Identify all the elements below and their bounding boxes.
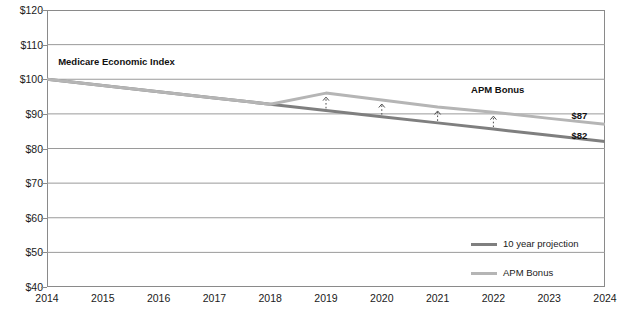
x-axis-tick-label: 2020 — [370, 292, 393, 304]
y-axis-tick-label: $100 — [20, 73, 43, 85]
legend-label: APM Bonus — [503, 267, 553, 278]
legend-swatch — [471, 243, 497, 246]
x-axis-tick-label: 2018 — [259, 292, 282, 304]
x-axis-tick-label: 2019 — [314, 292, 337, 304]
apm-bonus-callout: APM Bonus — [471, 84, 524, 95]
y-axis-tick-mark — [41, 149, 47, 150]
x-axis-tick-label: 2024 — [593, 292, 616, 304]
y-axis-tick-mark — [41, 10, 47, 11]
medicare-economic-index-label: Medicare Economic Index — [58, 56, 175, 67]
legend-swatch — [471, 272, 497, 275]
y-axis-tick-mark — [41, 45, 47, 46]
y-axis-tick-mark — [41, 218, 47, 219]
x-axis-tick-label: 2014 — [35, 292, 58, 304]
y-axis-tick-mark — [41, 79, 47, 80]
y-axis-tick-label: $110 — [20, 39, 43, 51]
x-axis-tick-label: 2022 — [482, 292, 505, 304]
y-axis-tick-mark — [41, 252, 47, 253]
y-axis-tick-mark — [41, 287, 47, 288]
y-axis: $120$110$100$90$80$70$60$50$40 — [0, 0, 43, 321]
x-axis-tick-label: 2021 — [426, 292, 449, 304]
x-axis-tick-label: 2023 — [538, 292, 561, 304]
x-axis-tick-label: 2016 — [147, 292, 170, 304]
y-axis-tick-label: $120 — [20, 4, 43, 16]
y-axis-tick-mark — [41, 114, 47, 115]
legend-label: 10 year projection — [503, 238, 579, 249]
x-axis-tick-label: 2017 — [203, 292, 226, 304]
endpoint-label-apm: $87 — [572, 110, 588, 121]
endpoint-label-projection: $82 — [572, 130, 588, 141]
x-axis-tick-label: 2015 — [91, 292, 114, 304]
y-axis-tick-mark — [41, 183, 47, 184]
